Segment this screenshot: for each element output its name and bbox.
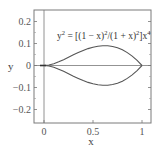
y-tick-label: 0.1 [19,38,32,49]
y-tick-label: −0.2 [13,104,31,115]
upper-curve [44,46,142,66]
x-tick-label: 1 [140,126,145,137]
x-tick-label: 0 [42,126,47,137]
annotation: y2 = [(1 − x)2/(1 + x)2]x4 [57,29,151,42]
x-axis-label: x [88,135,94,147]
y-tick-label: 0 [26,60,31,71]
y-axis-label: y [8,60,14,72]
lower-curve [44,66,142,86]
y-tick-label: −0.1 [13,82,31,93]
y-tick-label: 0.2 [19,16,32,27]
chart: 0.20.10−0.1−0.2 00.51 y2 = [(1 − x)2/(1 … [0,0,156,149]
